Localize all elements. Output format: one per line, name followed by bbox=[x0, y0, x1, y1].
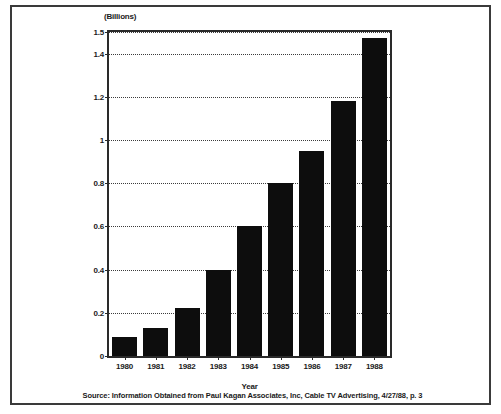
y-tick-mark bbox=[105, 32, 109, 33]
y-gridline bbox=[109, 97, 390, 98]
y-tick-mark bbox=[105, 313, 109, 314]
y-tick-mark bbox=[105, 97, 109, 98]
y-tick-label: 0.6 bbox=[93, 222, 104, 231]
y-tick-mark bbox=[105, 183, 109, 184]
x-axis-title: Year bbox=[107, 382, 392, 391]
plot-area: 00.20.40.60.811.21.41.519801981198219831… bbox=[107, 30, 392, 358]
y-tick-label: 0.8 bbox=[93, 179, 104, 188]
x-tick-mark bbox=[156, 356, 157, 360]
y-tick-label: 1.5 bbox=[93, 28, 104, 37]
x-tick-mark bbox=[281, 356, 282, 360]
x-tick-mark bbox=[343, 356, 344, 360]
bar-1985 bbox=[268, 183, 293, 356]
chart-figure: (Billions) 00.20.40.60.811.21.41.5198019… bbox=[12, 7, 493, 407]
x-tick-label-1983: 1983 bbox=[210, 362, 227, 371]
y-tick-mark bbox=[105, 356, 109, 357]
x-tick-mark bbox=[250, 356, 251, 360]
x-tick-label-1980: 1980 bbox=[116, 362, 133, 371]
bar-1984 bbox=[237, 226, 262, 356]
y-gridline bbox=[109, 54, 390, 55]
x-tick-label-1987: 1987 bbox=[335, 362, 352, 371]
y-tick-mark bbox=[105, 54, 109, 55]
plot-inner: 00.20.40.60.811.21.41.519801981198219831… bbox=[109, 32, 390, 356]
y-tick-mark bbox=[105, 270, 109, 271]
x-tick-label-1984: 1984 bbox=[241, 362, 258, 371]
y-tick-label: 0.4 bbox=[93, 265, 104, 274]
x-tick-mark bbox=[312, 356, 313, 360]
bar-1981 bbox=[143, 328, 168, 356]
y-tick-mark bbox=[105, 226, 109, 227]
x-tick-label-1982: 1982 bbox=[179, 362, 196, 371]
x-tick-label-1985: 1985 bbox=[272, 362, 289, 371]
bar-1980 bbox=[112, 337, 137, 356]
bar-1982 bbox=[175, 308, 200, 356]
x-tick-label-1988: 1988 bbox=[366, 362, 383, 371]
x-tick-label-1981: 1981 bbox=[147, 362, 164, 371]
bar-1988 bbox=[362, 38, 387, 356]
page-frame: (Billions) 00.20.40.60.811.21.41.5198019… bbox=[10, 5, 491, 405]
y-tick-label: 1.4 bbox=[93, 49, 104, 58]
bar-1983 bbox=[206, 270, 231, 356]
y-tick-label: 1.2 bbox=[93, 92, 104, 101]
x-tick-mark bbox=[125, 356, 126, 360]
x-tick-mark bbox=[187, 356, 188, 360]
bar-1986 bbox=[299, 151, 324, 356]
y-tick-label: 1 bbox=[100, 136, 104, 145]
units-caption: (Billions) bbox=[104, 12, 136, 21]
y-tick-mark bbox=[105, 140, 109, 141]
source-note: Source: Information Obtained from Paul K… bbox=[12, 391, 493, 400]
x-tick-mark bbox=[218, 356, 219, 360]
y-tick-label: 0 bbox=[100, 352, 104, 361]
y-tick-label: 0.2 bbox=[93, 308, 104, 317]
x-tick-label-1986: 1986 bbox=[303, 362, 320, 371]
x-tick-mark bbox=[374, 356, 375, 360]
bar-1987 bbox=[331, 101, 356, 356]
y-gridline bbox=[109, 32, 390, 33]
